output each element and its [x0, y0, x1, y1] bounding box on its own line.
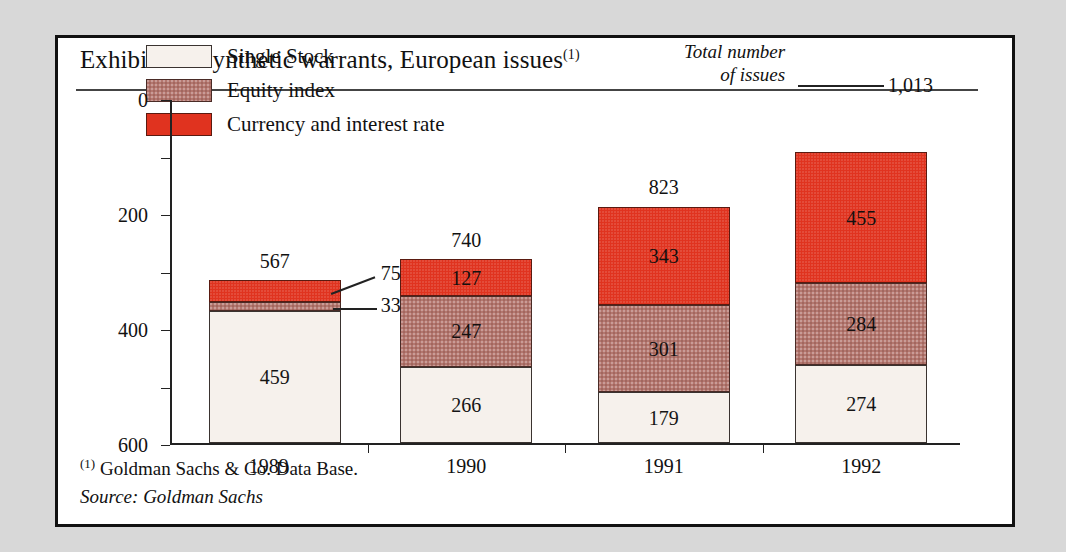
y-tick-600: 600 — [161, 273, 170, 274]
y-tick-label-1000: 200 — [118, 204, 148, 227]
y-tick-800: 400 — [161, 215, 170, 216]
source-note: Source: Goldman Sachs — [80, 486, 263, 508]
segment-value-1990-currency: 127 — [451, 268, 481, 288]
bar-segment-1992-single[interactable]: 274 — [795, 365, 927, 444]
legend-swatch-single-stock — [146, 45, 212, 68]
x-tick-1 — [368, 443, 369, 453]
x-axis-label-1992: 1992 — [841, 455, 881, 478]
legend-swatch-equity-index — [146, 79, 212, 102]
segment-value-1992-single: 274 — [846, 394, 876, 414]
total-label-1990: 740 — [451, 229, 481, 252]
legend-item-single-stock: Single Stock — [146, 44, 445, 69]
x-axis-label-1991: 1991 — [644, 455, 684, 478]
bar-1990[interactable]: 266247127 — [400, 259, 532, 443]
segment-value-1992-equity: 284 — [846, 314, 876, 334]
x-tick-3 — [763, 443, 764, 453]
segment-value-1990-equity: 247 — [451, 321, 481, 341]
bar-segment-1989-currency[interactable] — [209, 280, 341, 302]
plot-area: 1,2001,0008006004002000 1989199019911992… — [170, 100, 960, 445]
total-label-1989: 567 — [260, 250, 290, 273]
callout-leader-33 — [333, 308, 377, 310]
segment-value-1990-single: 266 — [451, 395, 481, 415]
callout-label-33: 33 — [381, 294, 401, 317]
y-tick-label-1200: 0 — [138, 89, 148, 112]
title-footnote-marker: (1) — [563, 47, 580, 62]
total-issues-annotation-line1: Total number — [684, 41, 785, 62]
segment-value-1991-equity: 301 — [649, 339, 679, 359]
segment-value-1989-single: 459 — [260, 367, 290, 387]
total-issues-annotation-line2: of issues — [684, 63, 785, 86]
total-label-1991: 823 — [649, 176, 679, 199]
x-axis-label-1990: 1990 — [446, 455, 486, 478]
y-tick-400: 800 — [161, 330, 170, 331]
x-tick-2 — [565, 443, 566, 453]
y-tick-200: 1,000 — [161, 388, 170, 389]
bar-segment-1991-currency[interactable]: 343 — [598, 207, 730, 306]
segment-value-1991-single: 179 — [649, 408, 679, 428]
y-tick-1000: 200 — [161, 158, 170, 159]
segment-value-1992-currency: 455 — [846, 208, 876, 228]
bar-1989[interactable]: 459 — [209, 280, 341, 443]
bar-1991[interactable]: 179301343 — [598, 207, 730, 444]
y-tick-label-400: 800 — [118, 549, 148, 552]
footnote-text: Goldman Sachs & Co. Data Base. — [95, 458, 358, 479]
y-tick-1200: 0 — [161, 100, 170, 101]
bar-segment-1989-single[interactable]: 459 — [209, 311, 341, 443]
bar-segment-1992-equity[interactable]: 284 — [795, 283, 927, 365]
bar-segment-1991-single[interactable]: 179 — [598, 392, 730, 443]
exhibit-frame: Exhibit 3.3 Synthetic warrants, European… — [55, 35, 1015, 527]
bar-segment-1989-equity[interactable] — [209, 302, 341, 311]
bar-segment-1990-single[interactable]: 266 — [400, 367, 532, 443]
footnote-marker: (1) — [80, 456, 95, 471]
y-tick-label-800: 400 — [118, 319, 148, 342]
legend-label-single-stock: Single Stock — [227, 44, 334, 69]
footnote-1: (1) Goldman Sachs & Co. Data Base. — [80, 456, 358, 480]
bar-segment-1991-equity[interactable]: 301 — [598, 305, 730, 392]
total-label-1992: 1,013 — [888, 74, 933, 97]
bar-segment-1990-equity[interactable]: 247 — [400, 296, 532, 367]
y-tick-0: 1,200 — [161, 445, 170, 446]
total-issues-leader-line — [798, 85, 884, 87]
bar-segment-1992-currency[interactable]: 455 — [795, 152, 927, 283]
bar-segment-1990-currency[interactable]: 127 — [400, 259, 532, 296]
total-issues-annotation: Total number of issues — [684, 40, 785, 86]
bar-1992[interactable]: 274284455 — [795, 152, 927, 443]
callout-label-75: 75 — [381, 262, 401, 285]
y-axis-line — [170, 100, 172, 445]
y-tick-label-600: 600 — [118, 434, 148, 457]
segment-value-1991-currency: 343 — [649, 246, 679, 266]
